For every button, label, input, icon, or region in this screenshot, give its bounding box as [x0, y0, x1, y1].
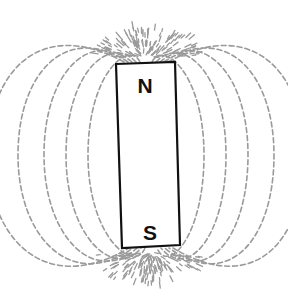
field-line: [168, 45, 288, 266]
south-pole-label: S: [143, 221, 157, 244]
north-pole-label: N: [137, 74, 152, 97]
bar-magnet-diagram: N S: [0, 0, 288, 293]
